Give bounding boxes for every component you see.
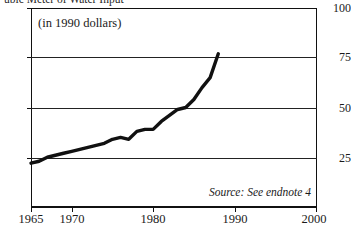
figure-water-productivity-chart: ubic Meter of Water Input 100 75 50 25 1… [0, 0, 351, 234]
line-series-water-productivity [31, 54, 218, 163]
data-series-layer [0, 0, 351, 234]
